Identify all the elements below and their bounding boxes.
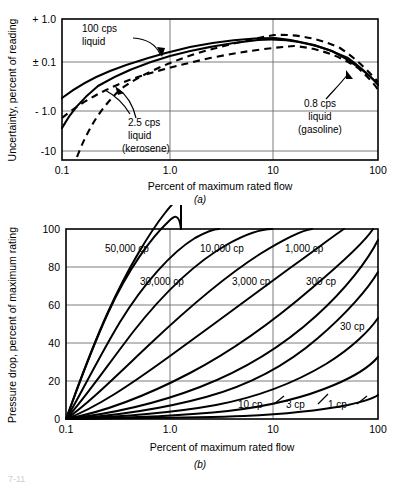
chart-b-gridlines [66, 229, 378, 419]
curve-label-10000cp: 10,000 cp [200, 243, 244, 254]
chart-a-caption: (a) [194, 194, 206, 205]
leader-3cp [318, 394, 328, 404]
curve-kerosene-dashed [77, 35, 378, 157]
chart-a-curves [62, 35, 378, 157]
annotation-0p8cps-line1: 0.8 cps [304, 98, 336, 109]
curve-100cps [62, 38, 378, 98]
annotation-100cps-line2: liquid [82, 36, 105, 47]
chart-b-xtick-0: 0.1 [59, 423, 74, 435]
chart-b-plot-frame [66, 229, 378, 419]
annotation-2p5cps-line1: 2.5 cps [128, 117, 160, 128]
chart-a-xtick-0: 0.1 [55, 164, 70, 176]
chart-a-svg: Uncertainty, percent of reading + 1.0 ± … [0, 0, 401, 205]
curve-label-1cp: 1 cp [328, 399, 347, 410]
chart-a-xtick-3: 100 [369, 164, 387, 176]
chart-a-ytick-2: - 1.0 [35, 105, 56, 117]
chart-b-curves [66, 205, 378, 419]
chart-a-xlabel: Percent of maximum rated flow [148, 180, 293, 192]
chart-b-curve-labels: 50,000 cp 30,000 cp 10,000 cp 3,000 cp 1… [105, 243, 365, 410]
curve-label-1000cp: 1,000 cp [285, 243, 324, 254]
chart-a-xtick-2: 10 [267, 164, 279, 176]
chart-b-ytick-60: 60 [48, 299, 60, 311]
chart-a-ytick-1: ± 0.1 [33, 56, 56, 68]
chart-panel-a: Uncertainty, percent of reading + 1.0 ± … [0, 0, 401, 205]
chart-a-gridlines [62, 19, 378, 160]
chart-a-plot-frame [62, 19, 378, 160]
chart-b-xlabel: Percent of maximum rated flow [150, 441, 295, 453]
curve-label-30cp: 30 cp [340, 321, 365, 332]
curve-label-10cp: 10 cp [238, 399, 263, 410]
chart-panel-b: Pressure drop, percent of maximum rating… [0, 205, 401, 485]
annotation-0p8cps-line2: liquid [308, 111, 331, 122]
chart-a-ylabel: Uncertainty, percent of reading [6, 18, 18, 161]
annotation-100cps-leader [133, 38, 160, 54]
curve-label-300cp: 300 cp [306, 276, 336, 287]
annotation-2p5cps: 2.5 cps liquid (kerosene) [105, 86, 170, 154]
chart-b-caption: (b) [194, 459, 206, 470]
figure-root: Uncertainty, percent of reading + 1.0 ± … [0, 0, 401, 485]
annotation-0p8cps-arrowhead [346, 70, 353, 79]
annotation-0p8cps-leader [326, 74, 348, 99]
annotation-0p8cps: 0.8 cps liquid (gasoline) [298, 70, 353, 135]
chart-b-svg: Pressure drop, percent of maximum rating… [0, 205, 401, 485]
chart-a-ytick-0: + 1.0 [32, 13, 56, 25]
annotation-100cps: 100 cps liquid [82, 23, 165, 57]
annotation-0p8cps-line3: (gasoline) [298, 124, 342, 135]
chart-b-ylabel: Pressure drop, percent of maximum rating [6, 227, 18, 423]
chart-b-xtick-2: 10 [267, 423, 279, 435]
curve-300cp [66, 229, 373, 419]
chart-b-xtick-1: 1.0 [163, 423, 178, 435]
annotation-100cps-line1: 100 cps [82, 23, 117, 34]
annotation-2p5cps-line2: liquid [128, 130, 151, 141]
curve-10000cp [66, 229, 272, 419]
curve-label-50000cp: 50,000 cp [105, 243, 149, 254]
chart-b-xtick-3: 100 [369, 423, 387, 435]
chart-b-ytick-100: 100 [42, 223, 60, 235]
curve-label-3cp: 3 cp [286, 399, 305, 410]
chart-b-ytick-20: 20 [48, 375, 60, 387]
chart-b-ytick-80: 80 [48, 261, 60, 273]
figure-number-fragment: 7-11 [8, 474, 25, 484]
curve-1000cp [66, 229, 344, 419]
curve-30cp [66, 272, 378, 419]
curve-label-30000cp: 30,000 cp [140, 276, 184, 287]
annotation-2p5cps-line3: (kerosene) [122, 143, 170, 154]
chart-b-ytick-40: 40 [48, 337, 60, 349]
chart-a-xtick-1: 1.0 [163, 164, 178, 176]
chart-a-ytick-3: -10 [41, 145, 56, 157]
curve-label-3000cp: 3,000 cp [232, 276, 271, 287]
